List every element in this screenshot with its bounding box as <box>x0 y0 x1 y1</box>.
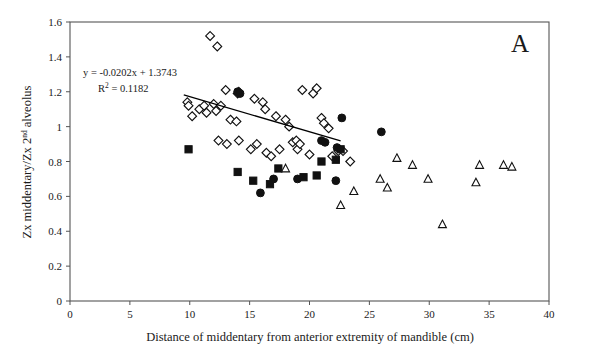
data-point-diamond <box>206 32 215 41</box>
y-axis-title-before: Zx middentary/Zx 2 <box>20 138 34 239</box>
data-point-square <box>185 146 192 153</box>
data-point-circle <box>338 114 346 122</box>
y-axis-tick-label: 1 <box>57 121 63 133</box>
x-axis-tick-label: 30 <box>424 308 436 320</box>
x-axis-tick-label: 0 <box>67 308 73 320</box>
data-point-diamond <box>234 136 243 145</box>
x-axis-tick-label: 15 <box>244 308 256 320</box>
data-point-circle <box>332 177 340 185</box>
data-point-triangle <box>508 163 516 171</box>
data-point-diamond <box>305 150 314 159</box>
data-point-diamond <box>188 112 197 121</box>
series-open-triangle <box>282 154 516 228</box>
r-squared-prefix: R <box>98 83 105 94</box>
r-squared-value: = 0.1182 <box>109 83 149 94</box>
data-point-diamond <box>346 157 355 166</box>
data-point-triangle <box>393 154 401 162</box>
data-point-square <box>266 181 273 188</box>
data-point-diamond <box>298 86 307 95</box>
data-point-square <box>275 165 282 172</box>
data-point-triangle <box>282 164 290 172</box>
data-point-triangle <box>500 161 508 169</box>
data-point-square <box>332 156 339 163</box>
data-point-triangle <box>376 175 384 183</box>
data-point-circle <box>321 138 329 146</box>
data-point-triangle <box>438 220 446 228</box>
x-axis-tick-label: 35 <box>484 308 496 320</box>
y-axis-tick-label: 0.4 <box>48 225 62 237</box>
x-axis-tick-label: 20 <box>304 308 316 320</box>
data-point-square <box>318 158 325 165</box>
y-axis-tick-label: 1.6 <box>48 16 62 28</box>
data-point-diamond <box>213 42 222 51</box>
data-point-diamond <box>214 136 223 145</box>
data-point-triangle <box>472 178 480 186</box>
figure-panel-a: 051015202530354000.20.40.60.811.21.41.6 … <box>0 0 589 355</box>
data-point-square <box>234 168 241 175</box>
data-point-square <box>300 174 307 181</box>
x-axis-title: Distance of middentary from anterior ext… <box>146 330 474 344</box>
series-open-diamond <box>183 32 355 166</box>
r-squared-label: R2 = 0.1182 <box>98 81 148 94</box>
data-points-group <box>183 32 516 228</box>
data-point-diamond <box>222 140 231 149</box>
data-point-diamond <box>272 112 281 121</box>
y-axis-title-after: alveolus <box>20 85 34 130</box>
y-axis-tick-label: 0.6 <box>48 190 62 202</box>
data-point-circle <box>257 189 265 197</box>
y-axis-tick-label: 0.8 <box>48 156 62 168</box>
plot-frame <box>70 22 549 301</box>
x-axis-tick-label: 5 <box>127 308 133 320</box>
data-point-triangle <box>424 175 432 183</box>
data-point-square <box>337 146 344 153</box>
data-point-circle <box>377 128 385 136</box>
data-point-triangle <box>337 201 345 209</box>
x-axis-tick-label: 25 <box>364 308 376 320</box>
regression-equation-label: y = -0.0202x + 1.3743 <box>83 67 177 78</box>
data-point-diamond <box>250 94 259 103</box>
x-axis-tick-label: 40 <box>544 308 556 320</box>
data-point-square <box>250 177 257 184</box>
y-axis-tick-label: 1.2 <box>48 86 62 98</box>
scatter-plot-svg: 051015202530354000.20.40.60.811.21.41.6 … <box>0 0 589 355</box>
y-axis-tick-label: 0.2 <box>48 260 62 272</box>
data-point-triangle <box>408 161 416 169</box>
data-point-circle <box>236 90 244 98</box>
y-axis-tick-label: 1.4 <box>48 51 62 63</box>
y-axis-tick-label: 0 <box>57 295 63 307</box>
data-point-diamond <box>275 145 284 154</box>
x-axis-tick-label: 10 <box>184 308 196 320</box>
data-point-triangle <box>476 161 484 169</box>
data-point-triangle <box>383 183 391 191</box>
y-axis-title: Zx middentary/Zx 2nd alveolus <box>20 85 34 238</box>
data-point-triangle <box>350 187 358 195</box>
panel-letter-label: A <box>511 30 529 57</box>
data-point-square <box>313 172 320 179</box>
data-point-diamond <box>221 86 230 95</box>
